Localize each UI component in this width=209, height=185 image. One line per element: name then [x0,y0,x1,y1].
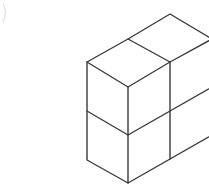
left-face-middle [87,111,128,135]
cube-stack-diagram [0,0,209,185]
cube-outline [87,14,209,183]
right-face-bottom [128,135,209,183]
top-divider [128,39,170,62]
right-face-middle [128,87,209,135]
corner-mark [3,4,6,22]
